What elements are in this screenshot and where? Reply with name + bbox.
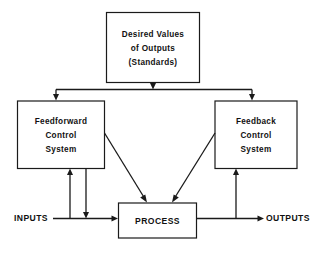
desired-values-line-2: of Outputs: [131, 44, 176, 53]
process-to-feedback-arrow: [172, 133, 215, 203]
feedforward-line-1: Feedforward: [35, 117, 87, 126]
process-box: PROCESS: [119, 203, 197, 238]
inputs-flow: INPUTS: [14, 213, 118, 223]
feedforward-line-3: System: [46, 145, 77, 154]
standards-to-feedback-arrowhead: [249, 94, 255, 101]
outputs-flow: OUTPUTS: [197, 213, 310, 223]
process-to-feedback-line: [176, 133, 216, 197]
input-to-feedforward-arrow: [67, 169, 73, 219]
feedforward-to-process-arrow: [105, 133, 148, 203]
inputs-label: INPUTS: [14, 213, 48, 223]
outputs-label: OUTPUTS: [266, 213, 310, 223]
inputs-arrowhead: [112, 216, 119, 222]
desired-values-box: Desired Values of Outputs (Standards): [107, 13, 200, 83]
feedback-control-system-box: Feedback Control System: [215, 101, 297, 169]
standards-drop-arrowhead: [150, 83, 156, 90]
process-label: PROCESS: [135, 216, 180, 226]
feedforward-control-system-box: Feedforward Control System: [18, 101, 105, 169]
outputs-arrowhead: [258, 216, 265, 222]
desired-values-line-3: (Standards): [129, 58, 178, 67]
feedforward-to-process-line: [105, 133, 144, 197]
standards-distribution-bus: [53, 83, 255, 101]
process-to-feedback-arrowhead: [172, 195, 179, 203]
feedback-line-2: Control: [240, 131, 271, 140]
output-to-feedback-arrow: [233, 169, 239, 219]
desired-values-line-1: Desired Values: [122, 30, 185, 39]
diagram-canvas: Desired Values of Outputs (Standards) Fe…: [0, 0, 316, 259]
standards-to-feedforward-arrowhead: [53, 94, 59, 101]
feedback-line-3: System: [241, 145, 272, 154]
feedforward-to-input-arrow: [83, 169, 89, 219]
feedforward-to-process-arrowhead: [140, 195, 147, 203]
control-system-block-diagram: Desired Values of Outputs (Standards) Fe…: [0, 0, 316, 259]
feedback-line-1: Feedback: [236, 117, 276, 126]
output-to-feedback-arrowhead: [233, 169, 239, 176]
feedforward-line-2: Control: [45, 131, 76, 140]
feedforward-to-input-arrowhead: [83, 212, 89, 219]
input-to-feedforward-arrowhead: [67, 169, 73, 176]
